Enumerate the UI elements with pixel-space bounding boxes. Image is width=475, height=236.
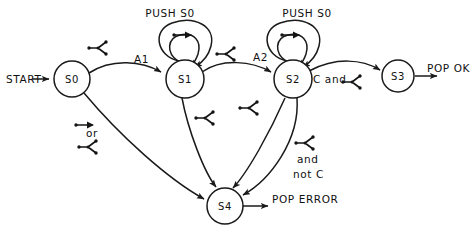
- edge-s2-to-s4-inner: [233, 98, 285, 188]
- diagram-canvas: S0 S1 S2 S3 S4 START A1 A2 C and and not…: [0, 0, 475, 236]
- node-s2[interactable]: S2: [274, 60, 312, 98]
- node-s1[interactable]: S1: [166, 60, 204, 98]
- pop-ok-label: POP OK: [427, 62, 471, 74]
- self-loop-s1-label: PUSH S0: [145, 7, 194, 19]
- edge-s1-to-s4: [182, 98, 216, 187]
- edge-s1-to-s2: [202, 63, 271, 72]
- node-s3-label: S3: [391, 71, 405, 82]
- edge-label-or: or: [86, 127, 98, 139]
- node-s0-label: S0: [65, 74, 79, 85]
- node-s4-label: S4: [218, 201, 232, 212]
- node-s3[interactable]: S3: [382, 60, 414, 92]
- edge-label-not-c: not C: [293, 168, 324, 180]
- fork-condition-glyph: [87, 40, 107, 55]
- edge-label-a2: A2: [253, 51, 268, 63]
- fork-condition-glyph: [194, 110, 214, 125]
- fork-condition-glyph: [215, 46, 235, 61]
- edge-label-a1: A1: [134, 53, 149, 65]
- fork-condition-glyph: [238, 100, 258, 115]
- state-diagram-svg: S0 S1 S2 S3 S4 START A1 A2 C and and not…: [0, 0, 475, 236]
- edge-s0-to-s4: [84, 93, 204, 199]
- fork-condition-glyph: [294, 135, 314, 150]
- node-s1-label: S1: [178, 74, 192, 85]
- node-s2-label: S2: [286, 74, 300, 85]
- start-label: START: [6, 73, 41, 85]
- edge-s2-to-s3: [309, 61, 380, 71]
- pop-error-label: POP ERROR: [272, 193, 338, 205]
- edge-label-c-and: C and: [313, 73, 346, 85]
- edge-s0-to-s1: [89, 63, 161, 73]
- edge-s2-to-s4-outer: [243, 98, 297, 195]
- self-loop-s2-label: PUSH S0: [282, 7, 331, 19]
- fork-condition-glyph: [77, 139, 97, 154]
- edge-label-and: and: [297, 153, 319, 165]
- node-s0[interactable]: S0: [54, 61, 90, 97]
- node-s4[interactable]: S4: [207, 188, 243, 224]
